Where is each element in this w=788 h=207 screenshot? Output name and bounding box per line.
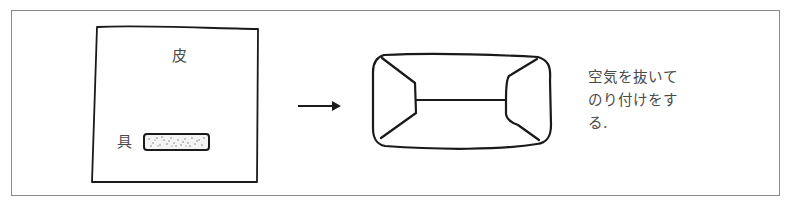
caption-line-1: 空気を抜いて: [588, 69, 678, 85]
caption-line-3: る.: [588, 115, 609, 131]
right-arrow-icon: [298, 101, 341, 111]
instruction-caption: 空気を抜いて のり付けをす る.: [588, 66, 678, 135]
filling-bar: [144, 134, 209, 150]
filling-label: 具: [117, 135, 132, 150]
folded-pillow-shape: [373, 54, 551, 149]
skin-label: 皮: [172, 49, 187, 64]
caption-line-2: のり付けをす: [588, 92, 678, 108]
